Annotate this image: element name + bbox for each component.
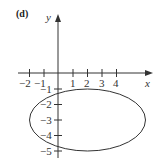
x-tick-label: 3 (99, 78, 105, 89)
panel-label: (d) (16, 9, 28, 19)
y-tick-label: −5 (40, 146, 52, 157)
x-tick-label: −2 (19, 78, 31, 89)
y-axis-arrow-icon (55, 14, 61, 22)
y-axis-label: y (46, 12, 51, 23)
y-tick-label: −1 (40, 84, 52, 95)
y-tick-label: −3 (40, 115, 52, 126)
x-tick-label: 4 (113, 78, 119, 89)
y-tick-label: −2 (40, 99, 52, 110)
y-tick-label: −4 (40, 130, 52, 141)
x-axis-arrow-icon (145, 70, 153, 76)
x-axis-label: x (145, 78, 150, 89)
x-tick-label: 2 (84, 78, 90, 89)
x-tick-label: 1 (70, 78, 76, 89)
